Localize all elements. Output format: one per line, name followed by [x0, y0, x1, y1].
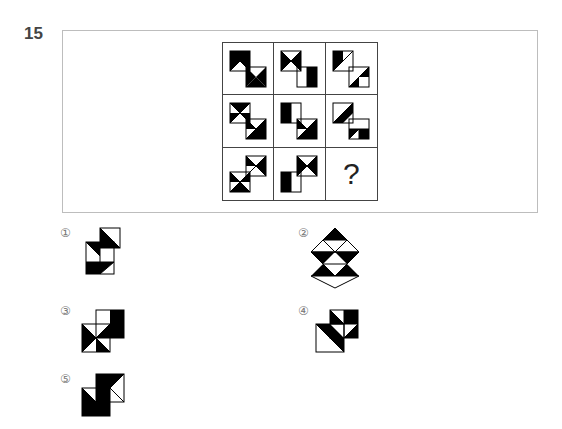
- figure-r2c1: [228, 101, 268, 141]
- grid-cell-r1c2: [274, 43, 325, 95]
- figure-r3c2: [279, 154, 319, 194]
- option-3[interactable]: ③: [60, 304, 150, 366]
- option-1-figure: [80, 226, 130, 276]
- option-2-figure: [310, 226, 360, 290]
- option-5[interactable]: ⑤: [60, 372, 150, 429]
- grid-cell-missing: ?: [326, 148, 377, 200]
- option-4-label: ④: [298, 304, 309, 318]
- grid-cell-r1c1: [223, 43, 274, 95]
- grid-cell-r3c1: [223, 148, 274, 200]
- figure-r3c1: [228, 154, 268, 194]
- grid-cell-r2c1: [223, 95, 274, 147]
- figure-r1c2: [279, 49, 319, 89]
- missing-figure-marker: ?: [343, 157, 360, 191]
- figure-r2c2: [279, 101, 319, 141]
- option-3-figure: [80, 308, 130, 360]
- grid-cell-r1c3: [326, 43, 377, 95]
- puzzle-grid: ?: [222, 42, 378, 201]
- option-5-label: ⑤: [60, 372, 71, 386]
- option-4-figure: [314, 308, 364, 360]
- figure-r2c3: [331, 101, 371, 141]
- grid-cell-r2c3: [326, 95, 377, 147]
- option-4[interactable]: ④: [298, 304, 388, 366]
- grid-cell-r3c2: [274, 148, 325, 200]
- option-5-figure: [80, 372, 130, 424]
- grid-cell-r2c2: [274, 95, 325, 147]
- option-1[interactable]: ①: [60, 226, 150, 286]
- question-number: 15: [24, 24, 43, 44]
- option-2-label: ②: [298, 226, 309, 240]
- option-3-label: ③: [60, 304, 71, 318]
- option-2[interactable]: ②: [298, 226, 388, 296]
- figure-r1c1: [228, 49, 268, 89]
- figure-r1c3: [331, 49, 371, 89]
- option-1-label: ①: [60, 226, 71, 240]
